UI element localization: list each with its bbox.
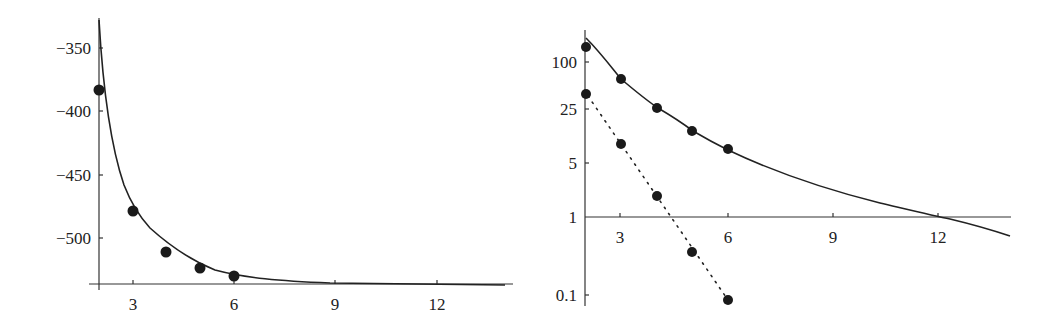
data-point [161,247,172,258]
data-point [229,271,240,282]
left-y-ticks: −350 −400 −450 −500 [56,39,103,248]
left-chart: −350 −400 −450 −500 3 6 9 12 [56,18,513,314]
left-data-points [94,85,240,282]
data-point [652,103,662,113]
right-x-ticks: 3 6 9 12 [616,213,947,247]
right-x-tick-label: 12 [930,228,947,247]
data-point [687,247,697,257]
left-y-tick-label: −450 [56,166,91,185]
data-point [687,126,697,136]
data-point [616,74,626,84]
right-y-tick-label: 100 [552,53,578,72]
right-chart: 100 25 5 1 0.1 3 6 9 12 [552,30,1012,306]
data-point [128,206,139,217]
right-x-tick-label: 9 [829,228,838,247]
figure: −350 −400 −450 −500 3 6 9 12 [0,0,1042,327]
left-fitted-curve [99,20,505,285]
right-y-tick-label: 1 [569,208,578,227]
right-y-tick-label: 5 [569,154,578,173]
right-y-tick-label: 25 [560,100,577,119]
left-x-ticks: 3 6 9 12 [129,280,446,314]
data-point [723,144,733,154]
right-lower-data-points [581,89,733,305]
data-point [616,139,626,149]
right-x-tick-label: 6 [724,228,733,247]
left-y-tick-label: −400 [56,102,91,121]
left-x-tick-label: 3 [129,295,138,314]
left-x-tick-label: 9 [331,295,340,314]
data-point [581,89,591,99]
data-point [581,42,591,52]
data-point [94,85,105,96]
left-y-tick-label: −350 [56,39,91,58]
left-x-tick-label: 12 [429,295,446,314]
data-point [723,295,733,305]
data-point [195,263,206,274]
right-x-tick-label: 3 [616,228,625,247]
data-point [652,191,662,201]
left-x-tick-label: 6 [230,295,239,314]
right-y-tick-label: 0.1 [556,286,577,305]
right-upper-fitted-curve [586,38,1010,236]
left-y-tick-label: −500 [56,229,91,248]
